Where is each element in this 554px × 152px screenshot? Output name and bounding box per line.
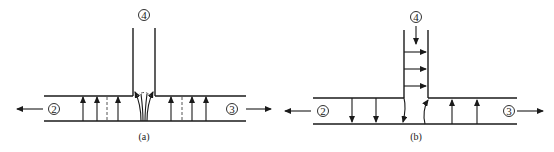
tee-junction-diagram: 4 2 3 (a) 4 2 3 [0,0,554,152]
port-2-label: 2 [320,105,326,117]
panel-a: 4 2 3 (a) [17,9,271,143]
port-3-label: 3 [506,105,512,117]
caption-a: (a) [138,131,149,143]
dashed-curve [137,93,151,97]
port-4-label: 4 [413,11,419,23]
panel-b: 4 2 3 (b) [285,11,543,143]
port-3-label: 3 [229,103,235,115]
caption-b: (b) [410,131,422,143]
streamline-arrow-icon [424,100,428,124]
streamline-arrow-icon [403,98,405,122]
port-4-label: 4 [141,9,147,21]
port-2-label: 2 [51,103,57,115]
streamline-arrow-icon [135,92,141,121]
streamline-arrow-icon [147,92,153,121]
